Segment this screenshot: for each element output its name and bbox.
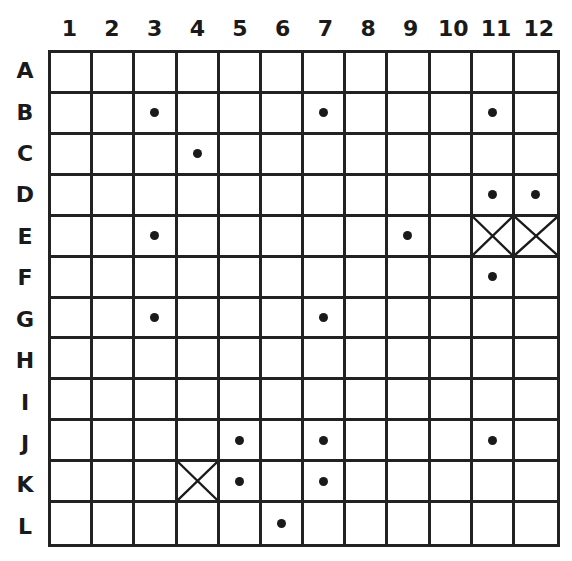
cell-B3[interactable] xyxy=(135,94,177,135)
cell-E10[interactable] xyxy=(431,217,473,258)
cell-A7[interactable] xyxy=(304,53,346,94)
cell-C11[interactable] xyxy=(473,135,515,176)
cell-A5[interactable] xyxy=(220,53,262,94)
cell-I4[interactable] xyxy=(178,380,220,421)
cell-D1[interactable] xyxy=(51,176,93,217)
cell-J9[interactable] xyxy=(388,421,430,462)
cell-F4[interactable] xyxy=(178,258,220,299)
cell-H10[interactable] xyxy=(431,339,473,380)
cell-L11[interactable] xyxy=(473,503,515,544)
cell-J11[interactable] xyxy=(473,421,515,462)
cell-C12[interactable] xyxy=(515,135,557,176)
cell-A9[interactable] xyxy=(388,53,430,94)
cell-H7[interactable] xyxy=(304,339,346,380)
cell-D8[interactable] xyxy=(346,176,388,217)
cell-F1[interactable] xyxy=(51,258,93,299)
cell-E11[interactable] xyxy=(473,217,515,258)
cell-G4[interactable] xyxy=(178,299,220,340)
cell-G8[interactable] xyxy=(346,299,388,340)
cell-B7[interactable] xyxy=(304,94,346,135)
cell-L9[interactable] xyxy=(388,503,430,544)
cell-D7[interactable] xyxy=(304,176,346,217)
cell-C2[interactable] xyxy=(93,135,135,176)
cell-E12[interactable] xyxy=(515,217,557,258)
cell-L6[interactable] xyxy=(262,503,304,544)
cell-H9[interactable] xyxy=(388,339,430,380)
cell-F10[interactable] xyxy=(431,258,473,299)
cell-B9[interactable] xyxy=(388,94,430,135)
cell-K10[interactable] xyxy=(431,462,473,503)
cell-I11[interactable] xyxy=(473,380,515,421)
cell-I9[interactable] xyxy=(388,380,430,421)
cell-A2[interactable] xyxy=(93,53,135,94)
cell-K9[interactable] xyxy=(388,462,430,503)
cell-D4[interactable] xyxy=(178,176,220,217)
cell-K5[interactable] xyxy=(220,462,262,503)
cell-E2[interactable] xyxy=(93,217,135,258)
cell-G11[interactable] xyxy=(473,299,515,340)
cell-G1[interactable] xyxy=(51,299,93,340)
cell-I10[interactable] xyxy=(431,380,473,421)
cell-C8[interactable] xyxy=(346,135,388,176)
cell-I12[interactable] xyxy=(515,380,557,421)
cell-L3[interactable] xyxy=(135,503,177,544)
cell-I8[interactable] xyxy=(346,380,388,421)
cell-F2[interactable] xyxy=(93,258,135,299)
cell-D10[interactable] xyxy=(431,176,473,217)
cell-H5[interactable] xyxy=(220,339,262,380)
cell-K2[interactable] xyxy=(93,462,135,503)
cell-J6[interactable] xyxy=(262,421,304,462)
cell-L2[interactable] xyxy=(93,503,135,544)
cell-A12[interactable] xyxy=(515,53,557,94)
cell-D9[interactable] xyxy=(388,176,430,217)
cell-H12[interactable] xyxy=(515,339,557,380)
cell-G6[interactable] xyxy=(262,299,304,340)
cell-H3[interactable] xyxy=(135,339,177,380)
cell-B1[interactable] xyxy=(51,94,93,135)
cell-A3[interactable] xyxy=(135,53,177,94)
cell-H4[interactable] xyxy=(178,339,220,380)
cell-B10[interactable] xyxy=(431,94,473,135)
cell-C6[interactable] xyxy=(262,135,304,176)
cell-J12[interactable] xyxy=(515,421,557,462)
cell-K4[interactable] xyxy=(178,462,220,503)
cell-F11[interactable] xyxy=(473,258,515,299)
cell-L1[interactable] xyxy=(51,503,93,544)
cell-A11[interactable] xyxy=(473,53,515,94)
cell-B2[interactable] xyxy=(93,94,135,135)
cell-K1[interactable] xyxy=(51,462,93,503)
cell-G10[interactable] xyxy=(431,299,473,340)
cell-G12[interactable] xyxy=(515,299,557,340)
cell-K6[interactable] xyxy=(262,462,304,503)
cell-F12[interactable] xyxy=(515,258,557,299)
cell-D6[interactable] xyxy=(262,176,304,217)
cell-F9[interactable] xyxy=(388,258,430,299)
cell-H6[interactable] xyxy=(262,339,304,380)
cell-B6[interactable] xyxy=(262,94,304,135)
cell-H1[interactable] xyxy=(51,339,93,380)
cell-K11[interactable] xyxy=(473,462,515,503)
cell-A1[interactable] xyxy=(51,53,93,94)
cell-J2[interactable] xyxy=(93,421,135,462)
cell-H11[interactable] xyxy=(473,339,515,380)
cell-E5[interactable] xyxy=(220,217,262,258)
cell-D3[interactable] xyxy=(135,176,177,217)
cell-H2[interactable] xyxy=(93,339,135,380)
cell-K3[interactable] xyxy=(135,462,177,503)
cell-D2[interactable] xyxy=(93,176,135,217)
cell-I5[interactable] xyxy=(220,380,262,421)
cell-A6[interactable] xyxy=(262,53,304,94)
cell-E1[interactable] xyxy=(51,217,93,258)
cell-B5[interactable] xyxy=(220,94,262,135)
cell-B12[interactable] xyxy=(515,94,557,135)
cell-E9[interactable] xyxy=(388,217,430,258)
cell-F6[interactable] xyxy=(262,258,304,299)
cell-I1[interactable] xyxy=(51,380,93,421)
cell-B11[interactable] xyxy=(473,94,515,135)
cell-J1[interactable] xyxy=(51,421,93,462)
cell-A10[interactable] xyxy=(431,53,473,94)
cell-F7[interactable] xyxy=(304,258,346,299)
cell-J4[interactable] xyxy=(178,421,220,462)
cell-J8[interactable] xyxy=(346,421,388,462)
cell-C9[interactable] xyxy=(388,135,430,176)
